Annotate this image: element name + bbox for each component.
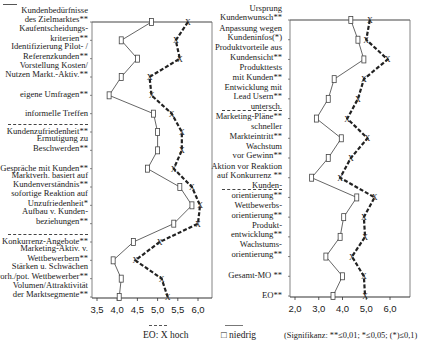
svg-text:X: X (149, 91, 155, 100)
svg-text:X: X (385, 55, 391, 64)
svg-text:X: X (185, 18, 191, 27)
svg-text:X: X (355, 95, 361, 104)
svg-text:X: X (361, 75, 367, 84)
svg-text:X: X (372, 193, 378, 202)
svg-text:X: X (195, 220, 201, 229)
profile-chart-canvas: XXXXXXXXXXXXXXXXXXXXXXXXXXXXXXX (0, 0, 425, 349)
svg-text:X: X (171, 165, 177, 174)
legend-low: □ niedrig (221, 330, 256, 340)
legend-high: EO: X hoch (143, 330, 188, 340)
legend-significance: (Signifikanz: **≤0,01; *≤0,05; (*)≤0,1) (284, 331, 417, 340)
svg-text:X: X (362, 292, 368, 301)
svg-text:X: X (179, 128, 185, 137)
svg-text:X: X (344, 115, 350, 124)
svg-text:X: X (179, 146, 185, 155)
svg-text:X: X (165, 293, 171, 302)
svg-text:X: X (177, 55, 183, 64)
svg-text:X: X (132, 256, 138, 265)
svg-text:X: X (189, 183, 195, 192)
svg-text:X: X (367, 16, 373, 25)
svg-text:X: X (348, 154, 354, 163)
svg-text:X: X (363, 36, 369, 45)
svg-text:X: X (365, 134, 371, 143)
svg-text:X: X (173, 36, 179, 45)
svg-text:X: X (147, 73, 153, 82)
svg-text:X: X (362, 233, 368, 242)
svg-text:X: X (157, 238, 163, 247)
svg-text:X: X (169, 110, 175, 119)
svg-text:X: X (337, 174, 343, 183)
svg-text:X: X (361, 213, 367, 222)
legend-dashed-line (149, 325, 167, 326)
svg-text:X: X (197, 201, 203, 210)
svg-text:X: X (361, 272, 367, 281)
svg-text:X: X (159, 275, 165, 284)
svg-text:X: X (349, 253, 355, 262)
legend-solid-line (225, 325, 243, 326)
